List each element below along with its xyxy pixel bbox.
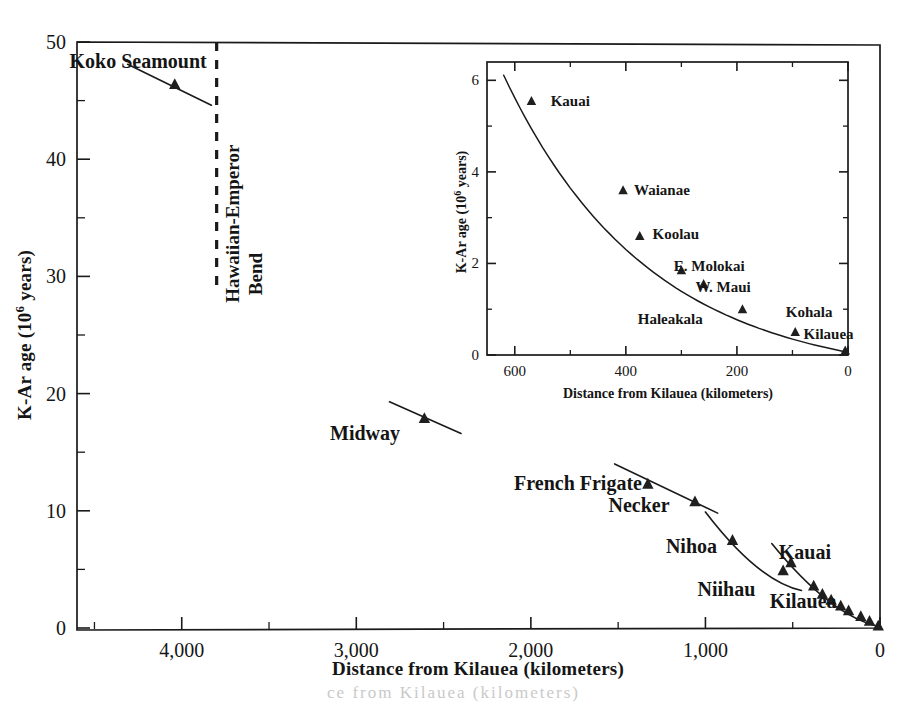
- main-y-tick-label-5: 50: [46, 31, 66, 53]
- inset-y-axis-title-suffix: years): [454, 150, 470, 190]
- main-point-annotations: Koko SeamountMidwayFrench FrigateNeckerN…: [69, 50, 836, 612]
- inset-point-koolau: [635, 231, 645, 240]
- inset-point-waianae: [618, 185, 628, 194]
- hawaiian-emperor-age-distance-chart: 4,0003,0002,0001,0000 01020304050 Koko S…: [0, 0, 907, 705]
- main-y-tick-label-4: 40: [46, 148, 66, 170]
- inset-y-tick-labels: 0246: [472, 72, 480, 363]
- inset-point-kauai: [527, 96, 537, 105]
- inset-x-tick-label-0: 600: [504, 363, 527, 379]
- inset-y-tick-label-0: 0: [472, 347, 480, 363]
- inset-annotation-kauai: Kauai: [551, 93, 590, 109]
- inset-annotation-koolau: Koolau: [652, 226, 699, 242]
- main-x-tick-label-0: 4,000: [159, 639, 204, 661]
- bend-label-line-1: Hawaiian-Emperor: [222, 144, 243, 303]
- inset-y-tick-label-1: 2: [472, 255, 480, 271]
- inset-annotation-w-maui: W. Maui: [695, 279, 750, 295]
- hawaiian-emperor-bend-marker: Hawaiian-EmperorBend: [217, 42, 266, 303]
- main-x-axis-title: Distance from Kilauea (kilometers): [332, 658, 624, 680]
- inset-annotation-kohala: Kohala: [786, 304, 833, 320]
- inset-annotation-e-molokai: E. Molokai: [674, 258, 745, 274]
- main-annotation-koko-seamount: Koko Seamount: [69, 50, 207, 72]
- main-y-tick-labels: 01020304050: [46, 31, 66, 639]
- inset-point-kohala: [790, 327, 800, 336]
- inset-x-tick-label-3: 0: [844, 363, 852, 379]
- main-axis-ticks: [77, 42, 880, 629]
- inset-y-axis-title: K-Ar age (106 years): [452, 150, 470, 273]
- main-annotation-french-frigate: French Frigate: [514, 472, 642, 495]
- main-annotation-kauai: Kauai: [779, 541, 832, 563]
- main-y-axis-title-prefix: K-Ar age (10: [14, 312, 36, 420]
- main-annotation-niihau: Niihau: [697, 578, 755, 600]
- main-y-axis-title: K-Ar age (106 years): [12, 250, 36, 420]
- main-x-tick-label-4: 0: [875, 639, 885, 661]
- inset-x-tick-labels: 6004002000: [504, 363, 852, 379]
- main-annotation-nihoa: Nihoa: [666, 535, 717, 557]
- main-x-tick-label-3: 1,000: [683, 639, 728, 661]
- main-point-midway: [419, 412, 430, 423]
- inset-annotation-waianae: Waianae: [634, 182, 690, 198]
- inset-point-haleakala: [738, 304, 748, 313]
- inset-x-axis-title: Distance from Kilauea (kilometers): [563, 386, 773, 402]
- main-y-axis-title-suffix: years): [14, 250, 36, 306]
- inset-y-tick-label-3: 6: [472, 72, 480, 88]
- inset-point-annotations: KauaiWaianaeKoolauE. MolokaiW. MauiHalea…: [551, 93, 854, 342]
- inset-annotation-haleakala: Haleakala: [638, 311, 704, 327]
- main-point-maui: [835, 600, 846, 611]
- main-y-tick-label-3: 30: [46, 265, 66, 287]
- figure-canvas: 4,0003,0002,0001,0000 01020304050 Koko S…: [0, 0, 907, 705]
- main-y-tick-label-0: 0: [56, 617, 66, 639]
- main-y-tick-label-1: 10: [46, 500, 66, 522]
- inset-y-axis-title-prefix: K-Ar age (10: [454, 196, 470, 274]
- inset-annotation-kilauea: Kilauea: [804, 326, 855, 342]
- main-annotation-necker: Necker: [609, 494, 670, 516]
- main-frame-path: [77, 42, 880, 630]
- main-plot-frame: [77, 42, 880, 630]
- main-point-koko-seamount: [169, 78, 180, 89]
- page-scan-smudge: ce from Kilauea (kilometers): [0, 683, 907, 703]
- inset-y-tick-label-2: 4: [472, 164, 480, 180]
- inset-plot: 6004002000 0246 KauaiWaianaeKoolauE. Mol…: [452, 62, 854, 402]
- bend-label-line-2: Bend: [245, 253, 266, 296]
- inset-x-tick-label-1: 400: [615, 363, 638, 379]
- main-y-tick-label-2: 20: [46, 383, 66, 405]
- main-point-french-frigate-shoals: [642, 478, 653, 489]
- inset-x-tick-label-2: 200: [726, 363, 749, 379]
- main-annotation-midway: Midway: [330, 422, 400, 445]
- main-annotation-kilauea: Kilauea: [770, 590, 837, 612]
- main-point-kohala: [855, 610, 866, 621]
